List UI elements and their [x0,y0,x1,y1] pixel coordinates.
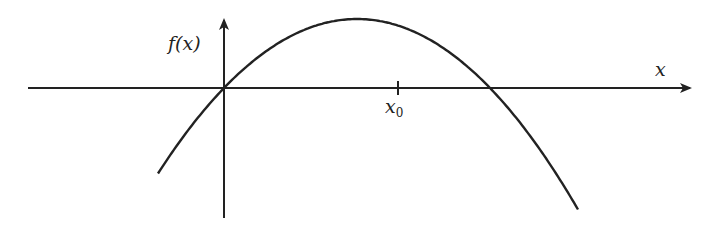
x-axis-label: x [655,58,666,80]
parabola-curve [158,19,578,210]
function-graph: f(x) x x0 [0,0,711,229]
y-axis-label: f(x) [166,32,201,54]
x0-label: x0 [385,95,403,120]
